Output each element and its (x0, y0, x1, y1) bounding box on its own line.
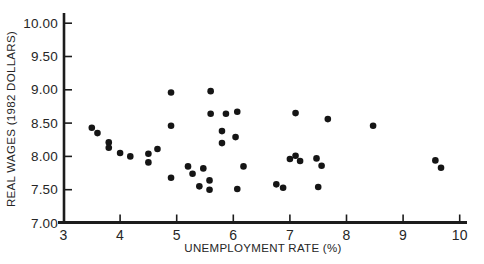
x-tick-label: 5 (173, 227, 181, 243)
data-point (117, 150, 124, 157)
data-point (168, 174, 175, 181)
plot-svg: REAL WAGES (1982 DOLLARS) UNEMPLOYMENT R… (0, 0, 484, 264)
data-point (318, 162, 325, 169)
data-point (94, 130, 101, 137)
data-point (223, 110, 230, 117)
data-point (154, 146, 161, 153)
data-point (232, 134, 239, 141)
data-point (207, 88, 214, 95)
scatter-chart: REAL WAGES (1982 DOLLARS) UNEMPLOYMENT R… (0, 0, 484, 264)
data-point (206, 186, 213, 193)
points-group (89, 88, 445, 193)
data-point (325, 116, 332, 123)
y-tick-label: 10.00 (23, 16, 58, 31)
data-point (219, 140, 226, 147)
data-point (145, 150, 152, 157)
data-point (105, 144, 112, 151)
data-point (280, 184, 287, 191)
y-tick-label: 7.50 (31, 182, 58, 197)
x-axis-title: UNEMPLOYMENT RATE (%) (184, 242, 341, 254)
data-point (200, 165, 207, 172)
data-point (189, 170, 196, 177)
y-tick-label: 8.00 (31, 149, 58, 164)
y-axis-title: REAL WAGES (1982 DOLLARS) (5, 31, 17, 207)
data-point (89, 124, 96, 131)
data-point (313, 155, 320, 162)
data-point (196, 183, 203, 190)
y-tick-label: 8.50 (31, 116, 58, 131)
data-point (234, 108, 241, 115)
y-tick-label: 7.00 (31, 216, 58, 231)
data-point (206, 177, 213, 184)
x-tick-label: 9 (399, 227, 407, 243)
data-point (315, 184, 322, 191)
x-tick-label: 3 (60, 227, 68, 243)
data-point (432, 157, 439, 164)
data-point (438, 164, 445, 171)
y-tick-label: 9.50 (31, 49, 58, 64)
x-tick-label: 7 (286, 227, 294, 243)
data-point (219, 128, 226, 135)
data-point (370, 122, 377, 129)
data-point (292, 152, 299, 159)
y-tick-label: 9.00 (31, 82, 58, 97)
data-point (273, 181, 280, 188)
data-point (240, 163, 247, 170)
data-point (297, 158, 304, 165)
x-tick-label: 10 (452, 227, 468, 243)
x-tick-label: 8 (343, 227, 351, 243)
data-point (234, 186, 241, 193)
data-point (127, 153, 134, 160)
data-point (168, 122, 175, 129)
data-point (145, 159, 152, 166)
x-tick-label: 4 (116, 227, 124, 243)
x-tick-label: 6 (229, 227, 237, 243)
data-point (287, 156, 294, 163)
data-point (207, 110, 214, 117)
data-point (168, 89, 175, 96)
data-point (292, 110, 299, 117)
data-point (185, 163, 192, 170)
